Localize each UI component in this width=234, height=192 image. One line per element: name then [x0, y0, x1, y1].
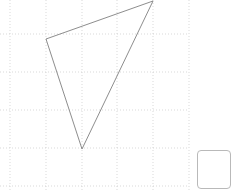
answer-input[interactable] [197, 150, 231, 189]
exercise-canvas [0, 0, 234, 192]
